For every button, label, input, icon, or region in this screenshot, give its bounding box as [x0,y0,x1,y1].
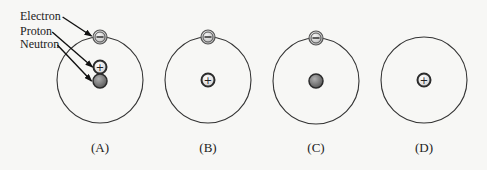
diagram-canvas: +(A)+(B)(C)+(D) ElectronProtonNeutron [0,0,487,170]
atom-diagram: +(A)+(B)(C)+(D) ElectronProtonNeutron [0,0,487,170]
electron-label: Electron [20,9,61,23]
atom-caption: (D) [415,140,433,155]
proton-symbol: + [420,75,428,86]
proton-symbol: + [96,62,104,73]
neutron-label: Neutron [20,37,59,51]
proton-icon: + [202,74,215,87]
atom-caption: (B) [199,140,216,155]
proton-symbol: + [204,75,212,86]
atom-a: +(A) [57,30,143,155]
callout-neutron: Neutron [20,37,92,81]
neutron-icon [93,74,107,88]
proton-icon: + [418,74,431,87]
proton-label: Proton [20,24,52,38]
atom-caption: (C) [307,140,324,155]
atoms-layer: +(A)+(B)(C)+(D) [57,30,467,155]
atom-d: +(D) [381,37,467,155]
atom-caption: (A) [91,140,109,155]
electron-icon [309,31,323,45]
atom-b: +(B) [165,30,251,155]
proton-icon: + [94,61,107,74]
atom-c: (C) [273,31,359,155]
electron-icon [201,30,215,44]
callouts-layer: ElectronProtonNeutron [20,9,93,81]
electron-icon [93,30,107,44]
neutron-icon [309,74,323,88]
electron-arrow [63,17,92,36]
